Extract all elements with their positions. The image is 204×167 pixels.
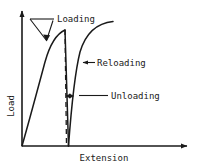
x-axis-label: Extension [80, 153, 129, 163]
load-extension-diagram: Loading Reloading Unloading Load Extensi… [0, 0, 204, 167]
loading-annotation: Loading [30, 14, 95, 42]
y-axis-label: Load [6, 95, 16, 117]
unloading-label: Unloading [111, 91, 160, 101]
loading-curve [22, 30, 65, 146]
axes-group [22, 11, 187, 146]
loading-leader-arrow [30, 19, 53, 41]
unloading-annotation: Unloading [66, 91, 160, 101]
reloading-annotation: Reloading [83, 58, 146, 68]
diagram-canvas: Loading Reloading Unloading Load Extensi… [0, 0, 204, 167]
reloading-curve [69, 22, 114, 147]
loading-label: Loading [57, 14, 95, 24]
reloading-label: Reloading [97, 58, 146, 68]
